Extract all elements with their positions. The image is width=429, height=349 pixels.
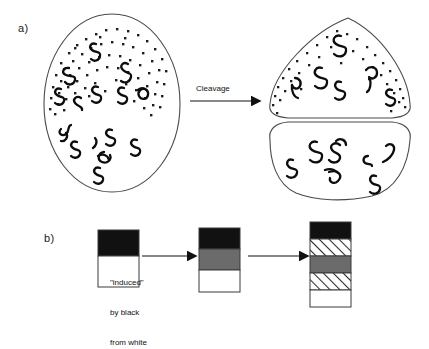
band-gray	[310, 256, 351, 273]
panel-label-b: b)	[44, 232, 54, 244]
uncleaved-egg	[44, 14, 180, 192]
upper-blastomere-outline	[270, 18, 411, 118]
upper-blastomere	[270, 18, 411, 118]
band-white	[199, 270, 240, 292]
band-black	[98, 230, 139, 256]
band-black	[310, 222, 351, 239]
band-black	[199, 228, 240, 249]
band-hatched-upper	[310, 239, 351, 256]
panel-label-a: a)	[18, 22, 28, 34]
cleaved-embryo	[270, 18, 411, 200]
band-white	[310, 290, 351, 307]
lower-blastomere	[270, 122, 411, 200]
induction-label-line-3: from white	[110, 338, 147, 348]
band-gray	[199, 249, 240, 270]
induction-arrow-label: "induced" by black from white	[110, 258, 147, 349]
cleavage-arrow-label: Cleavage	[196, 84, 230, 94]
stack-final	[310, 222, 351, 307]
stack-induced	[199, 228, 240, 292]
band-hatched-lower	[310, 273, 351, 290]
induction-label-line-2: by black	[110, 308, 147, 318]
induction-label-line-1: "induced"	[110, 278, 147, 288]
